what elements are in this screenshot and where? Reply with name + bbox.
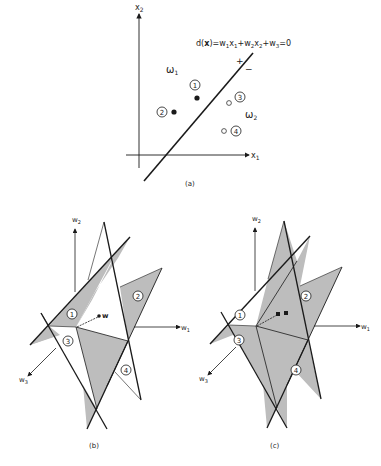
- panel-c-label: (c): [270, 442, 280, 450]
- w2-axis-label: w2: [72, 216, 81, 225]
- w1-axis-label: w1: [181, 324, 190, 333]
- svg-text:4: 4: [234, 128, 239, 136]
- sample-point-1: 1: [190, 80, 200, 101]
- weight-vector-label: w: [102, 312, 109, 320]
- svg-text:1: 1: [238, 312, 242, 320]
- negative-side-sign: −: [245, 64, 253, 74]
- svg-text:4: 4: [294, 367, 299, 375]
- class-omega1-label: ω1: [166, 64, 178, 76]
- region-label-4-c: 4: [291, 365, 301, 375]
- region-label-4: 4: [121, 365, 131, 375]
- svg-text:3: 3: [66, 338, 70, 346]
- panel-b-label: (b): [89, 442, 99, 450]
- svg-text:1: 1: [70, 311, 74, 319]
- w3-axis-label: w3: [19, 376, 28, 385]
- w3-axis: [28, 348, 56, 376]
- region-label-3: 3: [63, 336, 73, 346]
- svg-text:4: 4: [124, 367, 129, 375]
- x1-axis-label: x1: [251, 151, 260, 161]
- region-label-2-c: 2: [301, 291, 311, 301]
- positive-side-sign: +: [236, 56, 244, 66]
- sample-point-3: 3: [227, 92, 245, 105]
- figure-canvas: x2 x1 d(x)=w1x1+w2x2+w3=0 + − ω1 ω2 1 2 …: [0, 0, 381, 466]
- w1-axis-label-c: w1: [361, 323, 370, 332]
- svg-text:2: 2: [160, 109, 164, 117]
- panel-a: x2 x1 d(x)=w1x1+w2x2+w3=0 + − ω1 ω2 1 2 …: [126, 3, 291, 188]
- svg-text:2: 2: [304, 293, 308, 301]
- w3-axis-label-c: w3: [199, 375, 208, 384]
- svg-text:3: 3: [238, 94, 242, 102]
- svg-text:3: 3: [237, 337, 241, 345]
- boundary-equation: d(x)=w1x1+w2x2+w3=0: [196, 39, 291, 49]
- sample-point-2: 2: [157, 107, 177, 117]
- panel-b: w2 w1 w3 w 1 2 3 4 (b): [19, 216, 190, 450]
- region-label-1-c: 1: [235, 310, 245, 320]
- w2-axis-label-c: w2: [252, 215, 261, 224]
- x2-axis-label: x2: [135, 3, 144, 13]
- region-label-2: 2: [133, 291, 143, 301]
- sample-point-4: 4: [222, 126, 241, 136]
- panel-a-label: (a): [185, 180, 195, 188]
- region-label-1: 1: [67, 309, 77, 319]
- region-label-3-c: 3: [234, 335, 244, 345]
- panel-c: w2 w1 w3 1 2 3 4 (c): [199, 215, 370, 450]
- svg-text:2: 2: [136, 293, 140, 301]
- class-omega2-label: ω2: [245, 109, 257, 121]
- svg-text:1: 1: [193, 82, 197, 90]
